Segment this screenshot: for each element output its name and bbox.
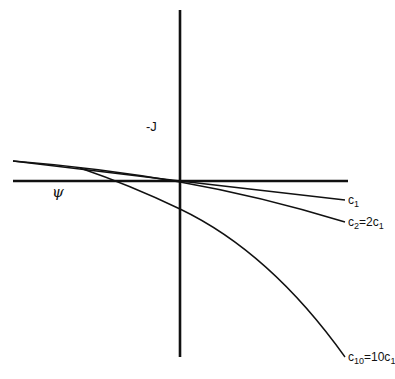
curve-label-c10-rest: =10c xyxy=(364,350,390,364)
curve-label-c2-rest-sub: 1 xyxy=(379,221,384,231)
vertical-axis-label: -J xyxy=(146,120,157,133)
curve-label-c2-rest: =2c xyxy=(359,215,379,229)
curve-label-c1-sub: 1 xyxy=(354,199,359,209)
horizontal-axis-label: ψ xyxy=(52,185,64,200)
curve-label-c10: c10=10c1 xyxy=(348,351,395,366)
diagram-canvas: -J ψ c1 c2=2c1 c10=10c1 xyxy=(0,0,395,379)
curve-label-c1: c1 xyxy=(348,194,359,209)
curve-label-c2: c2=2c1 xyxy=(348,216,384,231)
curve-label-c10-rest-sub: 1 xyxy=(390,356,395,366)
curve-label-c10-sub: 10 xyxy=(354,356,364,366)
curve-c10 xyxy=(80,168,345,357)
